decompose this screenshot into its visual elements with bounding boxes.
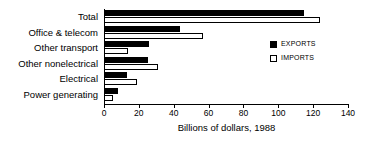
legend: EXPORTS IMPORTS	[270, 39, 316, 67]
x-axis-tick-label: 120	[306, 109, 320, 118]
bar-chart: Total Office & telecom Other transport O…	[0, 0, 378, 141]
bar-imports	[104, 48, 128, 54]
x-axis-tick-label: 100	[271, 109, 285, 118]
x-axis-tick-label: 40	[169, 109, 178, 118]
legend-item-exports: EXPORTS	[270, 39, 316, 49]
category-label: Office & telecom	[0, 28, 98, 38]
category-label: Total	[0, 12, 98, 22]
x-axis-tick-label: 60	[204, 109, 213, 118]
legend-label-imports: IMPORTS	[281, 54, 314, 62]
legend-label-exports: EXPORTS	[281, 40, 316, 48]
x-axis-tick-label: 140	[341, 109, 355, 118]
bar-exports	[104, 57, 148, 63]
x-axis-title: Billions of dollars, 1988	[104, 122, 349, 133]
bar-exports	[104, 88, 118, 94]
x-axis-tick-label: 80	[239, 109, 248, 118]
bar-exports	[104, 72, 127, 78]
bar-imports	[104, 95, 113, 101]
category-label: Electrical	[0, 74, 98, 84]
bar-imports	[104, 79, 137, 85]
legend-item-imports: IMPORTS	[270, 53, 316, 63]
x-axis-tick-label: 20	[134, 109, 143, 118]
category-label: Power generating	[0, 90, 98, 100]
bar-exports	[104, 26, 180, 32]
bar-imports	[104, 33, 203, 39]
x-axis-tick-label: 0	[102, 109, 107, 118]
bar-imports	[104, 64, 158, 70]
legend-swatch-imports-icon	[270, 55, 277, 62]
category-label-column: Total Office & telecom Other transport O…	[0, 9, 100, 104]
category-label: Other transport	[0, 43, 98, 53]
bar-imports	[104, 17, 320, 23]
legend-swatch-exports-icon	[270, 41, 277, 48]
bar-exports	[104, 41, 149, 47]
category-label: Other nonelectrical	[0, 59, 98, 69]
bar-exports	[104, 10, 304, 16]
